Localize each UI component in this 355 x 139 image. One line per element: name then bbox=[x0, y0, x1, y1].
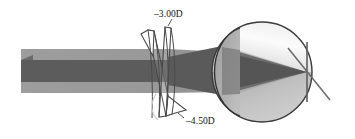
optics-diagram-figure: –3.00D –4.50D bbox=[0, 0, 355, 139]
label-bottom-lens-power: –4.50D bbox=[185, 116, 215, 126]
label-top-lens-power: –3.00D bbox=[153, 9, 183, 19]
inner-beam-collimated bbox=[21, 60, 168, 82]
diagram-canvas: –3.00D –4.50D bbox=[0, 0, 355, 139]
cornea-beam-shadow bbox=[222, 47, 240, 95]
